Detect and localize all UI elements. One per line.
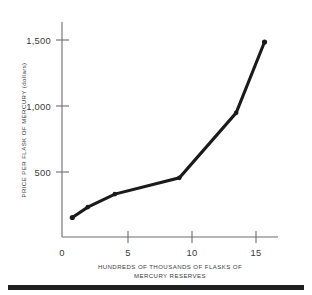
x-axis-title-line1: HUNDREDS OF THOUSANDS OF FLASKS OF: [98, 263, 242, 270]
data-point-markers: [70, 39, 267, 220]
data-point: [177, 176, 182, 181]
data-point: [113, 192, 118, 197]
y-tick-label-1500: 1,500: [26, 35, 51, 46]
data-point: [86, 205, 91, 210]
y-tick-label-1000: 1,000: [26, 101, 51, 112]
bottom-rule: [8, 285, 304, 290]
x-tick-label-15: 15: [251, 247, 262, 258]
x-axis-title-line2: MERCURY RESERVES: [134, 272, 206, 279]
chart-svg: 1,500 1,000 500 0 5 10 15 PRICE PER FLAS…: [0, 0, 312, 295]
y-axis-title: PRICE PER FLASK OF MERCURY (dollars): [20, 62, 27, 197]
mercury-price-chart-figure: 1,500 1,000 500 0 5 10 15 PRICE PER FLAS…: [0, 0, 312, 295]
x-tick-label-5: 5: [125, 247, 130, 258]
x-tick-label-10: 10: [187, 247, 198, 258]
data-point: [262, 39, 267, 44]
y-tick-label-500: 500: [35, 167, 51, 178]
x-tick-label-0: 0: [59, 247, 64, 258]
data-line-series-1: [72, 42, 264, 218]
data-point: [234, 111, 239, 116]
data-point: [70, 215, 75, 220]
